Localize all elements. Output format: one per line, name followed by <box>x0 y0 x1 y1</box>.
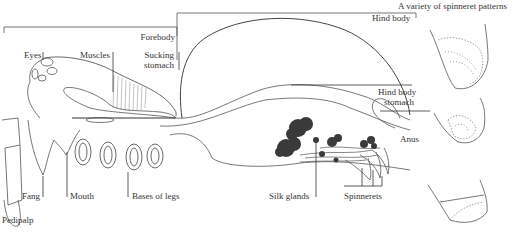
label-hind-body: Hind body <box>372 13 410 23</box>
label-eyes: Eyes <box>24 50 42 60</box>
label-silk-glands: Silk glands <box>269 191 309 201</box>
label-anus: Anus <box>400 134 419 144</box>
label-bases-of-legs: Bases of legs <box>132 191 180 201</box>
figure-title: A variety of spinneret patterns <box>398 1 507 11</box>
label-sucking-stomach-line2: stomach <box>140 60 174 70</box>
label-mouth: Mouth <box>70 191 94 201</box>
label-spinnerets: Spinnerets <box>344 191 382 201</box>
label-fang: Fang <box>22 191 40 201</box>
label-forebody: Forebody <box>135 32 175 42</box>
label-muscles: Muscles <box>80 50 110 60</box>
spider-anatomy-drawing <box>0 0 521 243</box>
label-hind-body-stomach-line2: stomach <box>384 97 414 107</box>
label-hind-body-stomach-line1: Hind body <box>378 87 416 97</box>
label-sucking-stomach-line1: Sucking <box>140 50 174 60</box>
label-pedipalp: Pedipalp <box>2 215 34 225</box>
